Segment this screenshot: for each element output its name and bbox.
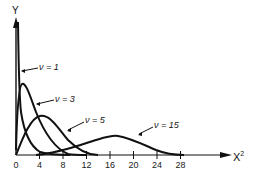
x-axis-label: X2 <box>233 150 244 163</box>
x-tick-8: 8 <box>60 161 65 170</box>
label-nu-3: ν = 3 <box>55 95 75 104</box>
x-tick-12: 12 <box>81 161 91 170</box>
x-tick-24: 24 <box>152 161 162 170</box>
x-axis-label-sup: 2 <box>240 150 244 157</box>
x-axis-arrow <box>220 152 232 158</box>
curve-nu-1 <box>18 22 70 155</box>
pointer-arrowheads <box>21 69 142 136</box>
x-tick-28: 28 <box>175 161 185 170</box>
x-tick-20: 20 <box>128 161 138 170</box>
label-nu-1: ν = 1 <box>39 63 59 72</box>
label-nu-15: ν = 15 <box>154 121 179 130</box>
label-nu-5: ν = 5 <box>85 116 105 125</box>
x-tick-16: 16 <box>105 161 115 170</box>
chi-square-chart <box>0 0 257 180</box>
curves <box>16 22 184 155</box>
y-axis-label: Y <box>12 6 19 16</box>
x-tick-0: 0 <box>13 161 18 170</box>
x-tick-4: 4 <box>37 161 42 170</box>
